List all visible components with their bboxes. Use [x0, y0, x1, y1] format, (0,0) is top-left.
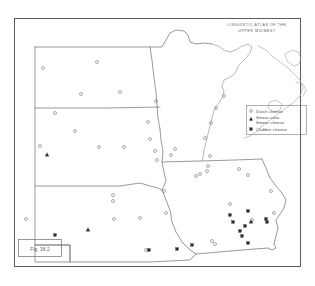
- legend-label-clabber-cheese: Clabber cheese: [256, 127, 288, 132]
- map-title-line2: UPPER MIDWEST: [238, 29, 276, 33]
- map-frame-border: [15, 19, 301, 267]
- linguistic-atlas-map-figure: LINGUISTIC ATLAS OF THE UPPER MIDWEST Du…: [0, 0, 315, 286]
- legend-label-dutch-cheese: Dutch cheese: [256, 109, 284, 114]
- map-canvas: LINGUISTIC ATLAS OF THE UPPER MIDWEST Du…: [0, 0, 315, 286]
- legend-label-smear-cheese: Smear cheese: [256, 120, 285, 125]
- legend-marker-filled-square: [250, 128, 253, 131]
- caption-label: Fig. 38.2: [30, 247, 50, 252]
- map-title-line1: LINGUISTIC ATLAS OF THE: [228, 23, 287, 27]
